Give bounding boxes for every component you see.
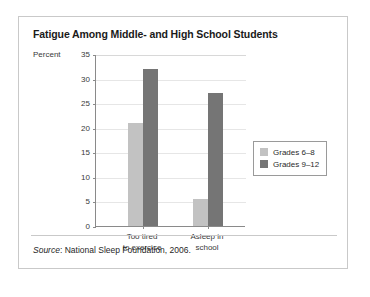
legend-item: Grades 9–12 bbox=[260, 158, 319, 170]
bar bbox=[208, 93, 223, 226]
x-tick-mark bbox=[208, 226, 209, 229]
x-axis-category-line: Asleep in bbox=[167, 231, 247, 242]
legend-swatch-icon bbox=[260, 148, 268, 156]
gridline bbox=[96, 153, 246, 154]
y-tick-label: 5 bbox=[86, 198, 90, 206]
y-tick-label: 0 bbox=[86, 223, 90, 231]
plot-wrap: 05101520253035 Too tiredto exerciseAslee… bbox=[95, 55, 245, 227]
y-tick-label: 25 bbox=[81, 100, 90, 108]
source-label: Source bbox=[33, 245, 60, 255]
legend-label: Grades 9–12 bbox=[273, 160, 319, 169]
y-tick-label: 30 bbox=[81, 76, 90, 84]
bar bbox=[143, 69, 158, 226]
gridline bbox=[96, 202, 246, 203]
gridline bbox=[96, 55, 246, 56]
y-tick-label: 35 bbox=[81, 51, 90, 59]
figure-card: Fatigue Among Middle- and High School St… bbox=[18, 16, 348, 269]
y-axis-title: Percent bbox=[33, 50, 61, 59]
plot-area: 05101520253035 bbox=[95, 55, 245, 227]
source-divider bbox=[31, 235, 337, 236]
y-tick-mark bbox=[93, 55, 96, 56]
y-tick-mark bbox=[93, 80, 96, 81]
y-tick-label: 15 bbox=[81, 149, 90, 157]
y-tick-label: 10 bbox=[81, 174, 90, 182]
y-tick-mark bbox=[93, 153, 96, 154]
y-tick-mark bbox=[93, 104, 96, 105]
legend-item: Grades 6–8 bbox=[260, 146, 319, 158]
legend-label: Grades 6–8 bbox=[273, 148, 315, 157]
chart-title: Fatigue Among Middle- and High School St… bbox=[33, 28, 278, 40]
chart-legend: Grades 6–8 Grades 9–12 bbox=[253, 141, 327, 176]
gridline bbox=[96, 104, 246, 105]
y-tick-label: 20 bbox=[81, 125, 90, 133]
source-text: : National Sleep Foundation, 2006. bbox=[60, 245, 191, 255]
legend-swatch-icon bbox=[260, 160, 268, 168]
y-tick-mark bbox=[93, 129, 96, 130]
y-tick-mark bbox=[93, 202, 96, 203]
source-note: Source: National Sleep Foundation, 2006. bbox=[33, 245, 191, 255]
y-tick-mark bbox=[93, 178, 96, 179]
bar bbox=[193, 199, 208, 226]
x-tick-mark bbox=[143, 226, 144, 229]
gridline bbox=[96, 129, 246, 130]
bar bbox=[128, 123, 143, 226]
gridline bbox=[96, 178, 246, 179]
y-tick-mark bbox=[93, 227, 96, 228]
gridline bbox=[96, 80, 246, 81]
